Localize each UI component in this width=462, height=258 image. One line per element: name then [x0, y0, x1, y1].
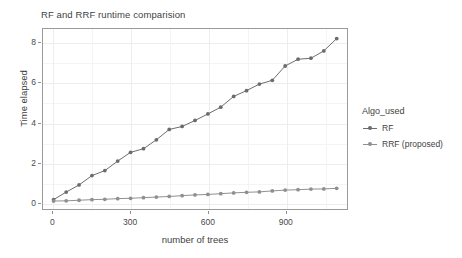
y-tick-mark [38, 203, 41, 204]
x-axis-title: number of trees [42, 234, 348, 245]
legend-title: Algo_used [362, 106, 460, 116]
data-point [103, 169, 107, 173]
y-tick-mark [38, 42, 41, 43]
data-point [64, 190, 68, 194]
data-point [90, 174, 94, 178]
data-point [335, 37, 339, 41]
y-tick-mark [38, 123, 41, 124]
data-point [193, 119, 197, 123]
legend-item[interactable]: RRF (proposed) [362, 137, 460, 151]
legend-item-label: RRF (proposed) [382, 139, 443, 149]
plot-panel [42, 28, 348, 210]
x-tick-label: 300 [123, 217, 137, 227]
data-point [270, 189, 274, 193]
data-point [258, 190, 262, 194]
data-point [154, 195, 158, 199]
data-point [283, 188, 287, 192]
data-point [129, 196, 133, 200]
x-tick-label: 600 [201, 217, 215, 227]
data-point [335, 186, 339, 190]
legend-key-icon [362, 122, 378, 134]
x-tick-label: 0 [50, 217, 55, 227]
data-point [129, 150, 133, 154]
x-tick-label: 900 [279, 217, 293, 227]
data-point [103, 197, 107, 201]
y-tick-label: 4 [31, 118, 36, 128]
data-point [309, 187, 313, 191]
data-point [116, 159, 120, 163]
data-point [180, 194, 184, 198]
data-point [180, 125, 184, 129]
data-point [219, 192, 223, 196]
y-axis-title: Time elapsed [18, 39, 29, 159]
data-point [206, 193, 210, 197]
data-point [167, 195, 171, 199]
legend-key-icon [362, 138, 378, 150]
data-point [309, 56, 313, 60]
data-point [206, 112, 210, 116]
data-point [322, 187, 326, 191]
data-point [232, 191, 236, 195]
y-tick-label: 6 [31, 77, 36, 87]
x-tick-mark [286, 211, 287, 214]
data-point [90, 198, 94, 202]
data-point [77, 198, 81, 202]
legend-item-label: RF [382, 123, 393, 133]
data-point [296, 57, 300, 61]
data-point [296, 188, 300, 192]
data-point [142, 196, 146, 200]
data-point [77, 183, 81, 187]
y-tick-mark [38, 163, 41, 164]
legend-item[interactable]: RF [362, 121, 460, 135]
series-2 [52, 186, 339, 202]
data-point [116, 197, 120, 201]
data-point [270, 78, 274, 82]
x-tick-mark [130, 211, 131, 214]
data-point [232, 95, 236, 99]
data-point [64, 199, 68, 203]
chart-figure: RF and RRF runtime comparision 02468 030… [0, 0, 462, 258]
data-point [245, 190, 249, 194]
chart-title: RF and RRF runtime comparision [41, 9, 186, 20]
data-point [219, 105, 223, 109]
series-layer [43, 29, 347, 209]
x-tick-mark [52, 211, 53, 214]
data-point [258, 82, 262, 86]
data-point [142, 147, 146, 151]
data-point [52, 199, 56, 203]
data-point [245, 89, 249, 93]
y-tick-label: 2 [31, 158, 36, 168]
data-point [154, 138, 158, 142]
data-point [283, 64, 287, 68]
legend: Algo_used RFRRF (proposed) [362, 106, 460, 153]
y-tick-mark [38, 82, 41, 83]
legend-items: RFRRF (proposed) [362, 121, 460, 151]
x-tick-mark [208, 211, 209, 214]
data-point [322, 49, 326, 53]
y-tick-label: 8 [31, 37, 36, 47]
series-1 [52, 37, 339, 202]
y-tick-label: 0 [31, 198, 36, 208]
data-point [193, 193, 197, 197]
data-point [167, 128, 171, 132]
